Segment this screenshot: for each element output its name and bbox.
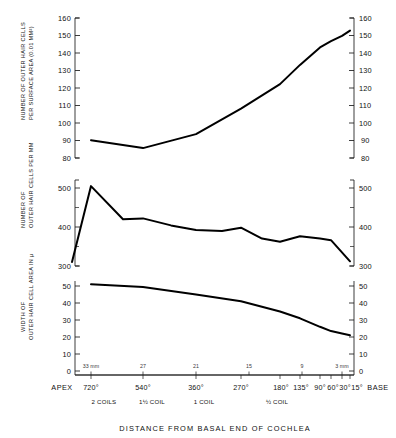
panel-1-ytick-right-80: 80: [361, 154, 370, 163]
panel-2-ytick-right-400: 400: [359, 223, 372, 232]
panel-3-ytick-right-0: 0: [359, 367, 363, 376]
panel-3-ytick-left-20: 20: [62, 333, 71, 342]
panel-1-ytick-right-120: 120: [359, 84, 372, 93]
x-degree-label-90: 90°: [314, 383, 325, 392]
panel-3-ytick-left-10: 10: [62, 350, 71, 359]
panel-1-ytick-left-120: 120: [58, 84, 71, 93]
x-axis: 33 mm 27 21 15 9 3 mm 720° 540° 360° 270…: [51, 363, 388, 433]
panel-2-ytick-right-300: 300: [359, 262, 372, 271]
x-degree-label-540: 540°: [135, 383, 151, 392]
x-degree-label-60: 60°: [327, 383, 338, 392]
panel-2-left-axis: 500 400 300: [58, 180, 80, 271]
x-mm-label-21: 21: [193, 363, 199, 369]
figure-svg: 160 150 140 130 120 110 100 90 80 NUMBER…: [0, 0, 396, 438]
x-axis-coil-labels: 2 COILS 1½ COIL 1 COIL ½ COIL: [92, 398, 289, 405]
panel-1-ytick-right-110: 110: [359, 101, 371, 110]
figure-x-axis-title: DISTANCE FROM BASAL END OF COCHLEA: [119, 424, 310, 433]
panel-1-ylabel-line2: PER SURFACE AREA (0.01 MM²): [28, 26, 34, 120]
coil-label-half-coil: ½ COIL: [266, 398, 289, 405]
x-degree-label-270: 270°: [233, 383, 249, 392]
x-degree-label-135: 135°: [293, 383, 309, 392]
x-axis-apex-label: APEX: [51, 383, 72, 392]
x-mm-label-9: 9: [300, 363, 303, 369]
panel-3-ytick-right-10: 10: [359, 350, 368, 359]
panel-1-ytick-right-100: 100: [359, 119, 372, 128]
panel-3-ytick-right-50: 50: [359, 282, 368, 291]
panel-1-ytick-left-140: 140: [58, 49, 71, 58]
panel-2-ytick-left-300: 300: [58, 262, 71, 271]
x-mm-label-33: 33 mm: [83, 363, 100, 369]
panel-3-ytick-left-30: 30: [62, 316, 71, 325]
panel-2-right-axis: 500 400 300: [349, 180, 372, 271]
panel-1-ytick-left-110: 110: [59, 101, 71, 110]
coil-label-1-coil: 1 COIL: [194, 398, 215, 405]
coil-label-2-coils: 2 COILS: [92, 398, 117, 405]
panel-2-outer-hair-cells-per-mm: 500 400 300 NUMBER OF OUTER HAIR CELLS P…: [20, 142, 372, 270]
cochlea-hair-cell-figure: 160 150 140 130 120 110 100 90 80 NUMBER…: [0, 0, 396, 438]
x-mm-label-3: 3 mm: [335, 363, 349, 369]
panel-1-ytick-left-160: 160: [58, 14, 71, 23]
panel-1-left-axis: 160 150 140 130 120 110 100 90 80: [58, 14, 80, 163]
panel-3-ytick-right-40: 40: [359, 299, 368, 308]
panel-1-y-axis-title: NUMBER OF OUTER HAIR CELLS PER SURFACE A…: [20, 22, 34, 120]
panel-2-ytick-left-400: 400: [58, 223, 71, 232]
panel-1-ytick-left-80: 80: [62, 154, 71, 163]
panel-1-ytick-right-130: 130: [359, 66, 372, 75]
panel-1-ytick-right-150: 150: [359, 31, 372, 40]
panel-3-ytick-right-30: 30: [359, 316, 368, 325]
x-degree-label-180: 180°: [273, 383, 289, 392]
panel-2-ylabel-line1: NUMBER OF: [20, 191, 26, 228]
panel-1-data-line: [91, 31, 350, 149]
panel-3-ytick-left-50: 50: [62, 282, 71, 291]
panel-3-ytick-left-40: 40: [62, 299, 71, 308]
panel-2-data-line: [72, 186, 350, 262]
panel-2-ytick-left-500: 500: [58, 184, 71, 193]
panel-3-ylabel-line2: OUTER HAIR CELL AREA IN μ: [28, 253, 34, 340]
coil-label-1-5-coil: 1½ COIL: [139, 398, 165, 405]
panel-3-data-line: [91, 284, 350, 335]
panel-1-right-axis: 160 150 140 130 120 110 100 90 80: [349, 14, 372, 163]
x-degree-label-360: 360°: [188, 383, 204, 392]
panel-3-right-axis: 50 40 30 20 10 0: [349, 281, 368, 376]
panel-1-ytick-left-100: 100: [58, 119, 71, 128]
panel-2-ytick-right-500: 500: [359, 184, 372, 193]
panel-3-y-axis-title: WIDTH OF OUTER HAIR CELL AREA IN μ: [20, 253, 34, 340]
x-axis-base-label: BASE: [367, 383, 388, 392]
panel-1-ylabel-line1: NUMBER OF OUTER HAIR CELLS: [20, 22, 26, 120]
panel-2-ylabel-line2: OUTER HAIR CELLS PER MM: [28, 142, 34, 228]
panel-3-ylabel-line1: WIDTH OF: [20, 301, 26, 332]
panel-2-y-axis-title: NUMBER OF OUTER HAIR CELLS PER MM: [20, 142, 34, 228]
panel-1-outer-hair-cells-per-surface-area: 160 150 140 130 120 110 100 90 80 NUMBER…: [20, 14, 372, 163]
x-degree-label-15: 15°: [351, 383, 362, 392]
x-mm-label-27: 27: [140, 363, 146, 369]
panel-3-width-of-outer-hair-cell-area: 50 40 30 20 10 0 WIDTH OF OUTER HAIR CEL…: [20, 253, 368, 375]
panel-3-ytick-right-20: 20: [359, 333, 368, 342]
x-axis-mm-ticks: 33 mm 27 21 15 9 3 mm: [83, 363, 350, 375]
x-mm-label-15: 15: [246, 363, 252, 369]
panel-1-ytick-right-160: 160: [359, 14, 372, 23]
panel-1-ytick-left-150: 150: [58, 31, 71, 40]
panel-1-ytick-left-130: 130: [58, 66, 71, 75]
x-degree-label-720: 720°: [83, 383, 99, 392]
x-axis-degree-ticks: 720° 540° 360° 270° 180° 135° 90° 60° 30…: [83, 375, 363, 392]
panel-1-ytick-right-90: 90: [361, 136, 370, 145]
panel-3-ytick-left-0: 0: [67, 367, 71, 376]
x-degree-label-30: 30°: [339, 383, 350, 392]
panel-3-left-axis: 50 40 30 20 10 0: [62, 281, 80, 376]
panel-1-ytick-left-90: 90: [62, 136, 71, 145]
panel-1-ytick-right-140: 140: [359, 49, 372, 58]
